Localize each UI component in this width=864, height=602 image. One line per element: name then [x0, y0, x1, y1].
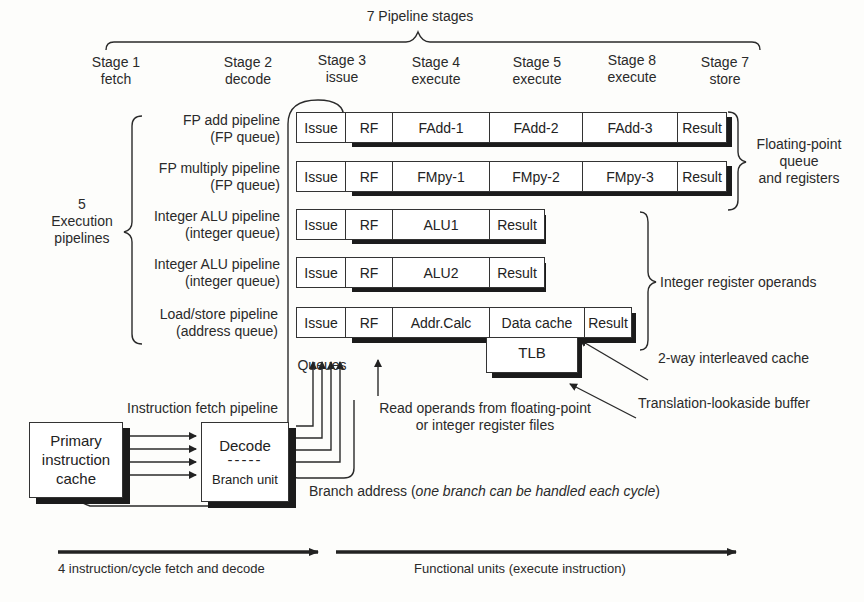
pipeline-row-load-store: Issue RF Addr.Calc Data cache Result — [296, 307, 632, 338]
cell-fmpy-2: FMpy-2 — [489, 161, 583, 192]
cell-rf: RF — [345, 161, 393, 192]
stage-3: Stage 3issue — [302, 52, 382, 86]
cell-data-cache: Data cache — [489, 307, 585, 338]
pipeline-row-int-alu-2: Issue RF ALU2 Result — [296, 257, 545, 288]
pipeline-row-fp-multiply: Issue RF FMpy-1 FMpy-2 FMpy-3 Result — [296, 161, 727, 192]
cell-issue: Issue — [296, 161, 346, 192]
read-operands-label: Read operands from floating-point or int… — [360, 400, 610, 434]
execution-pipelines-label: 5 Execution pipelines — [40, 196, 124, 247]
pipeline-row-int-alu-1: Issue RF ALU1 Result — [296, 209, 545, 240]
cell-rf: RF — [345, 209, 393, 240]
stage-4: Stage 4execute — [396, 54, 476, 88]
fetch-decode-footer-label: 4 instruction/cycle fetch and decode — [58, 560, 265, 577]
cell-issue: Issue — [296, 209, 346, 240]
fp-queue-registers-label: Floating-point queue and registers — [744, 136, 854, 187]
branch-address-label: Branch address (one branch can be handle… — [309, 483, 660, 500]
decode-unit: Decode ----- Branch unit — [201, 422, 289, 502]
cell-result: Result — [584, 307, 632, 338]
cell-fadd-3: FAdd-3 — [582, 112, 678, 143]
cell-rf: RF — [345, 307, 393, 338]
queues-label: Queues — [292, 357, 352, 374]
primary-instruction-cache: Primary instruction cache — [29, 422, 123, 498]
cell-fadd-2: FAdd-2 — [489, 112, 583, 143]
cell-fmpy-3: FMpy-3 — [582, 161, 678, 192]
pipeline-stages-title: 7 Pipeline stages — [360, 8, 480, 25]
pipeline-label-int-alu-2: Integer ALU pipeline(integer queue) — [132, 256, 280, 290]
stage-5: Stage 5execute — [497, 54, 577, 88]
instruction-fetch-pipeline-label: Instruction fetch pipeline — [100, 400, 278, 417]
pipeline-label-fp-multiply: FP multiply pipeline(FP queue) — [138, 160, 280, 194]
tlb-full-label: Translation-lookaside buffer — [638, 395, 810, 412]
cell-alu1: ALU1 — [392, 209, 490, 240]
queue-enclosure — [288, 100, 354, 478]
cell-issue: Issue — [296, 257, 346, 288]
integer-register-operands-label: Integer register operands — [660, 274, 816, 291]
two-way-cache-label: 2-way interleaved cache — [658, 350, 809, 367]
cell-fmpy-1: FMpy-1 — [392, 161, 490, 192]
cell-result: Result — [677, 112, 727, 143]
tlb-box: TLB — [486, 337, 578, 373]
cell-result: Result — [489, 257, 545, 288]
diagram-lines — [0, 0, 864, 602]
branch-unit-label: Branch unit — [202, 472, 288, 487]
stage-2: Stage 2decode — [208, 54, 288, 88]
pipeline-row-fp-add: Issue RF FAdd-1 FAdd-2 FAdd-3 Result — [296, 112, 727, 143]
cell-issue: Issue — [296, 307, 346, 338]
stage-7: Stage 7store — [685, 54, 765, 88]
int-brace — [640, 212, 656, 350]
cell-fadd-1: FAdd-1 — [392, 112, 490, 143]
pipeline-label-fp-add: FP add pipeline(FP queue) — [138, 112, 280, 146]
stage-1: Stage 1fetch — [76, 54, 156, 88]
cell-result: Result — [677, 161, 727, 192]
functional-units-footer-label: Functional units (execute instruction) — [414, 560, 626, 577]
stages-brace — [106, 32, 760, 50]
pipeline-label-load-store: Load/store pipeline(address queue) — [132, 306, 278, 340]
pipeline-label-int-alu-1: Integer ALU pipeline(integer queue) — [132, 208, 280, 242]
stage-8: Stage 8execute — [592, 52, 672, 86]
cell-rf: RF — [345, 112, 393, 143]
cell-issue: Issue — [296, 112, 346, 143]
cell-result: Result — [489, 209, 545, 240]
cell-rf: RF — [345, 257, 393, 288]
cell-addr-calc: Addr.Calc — [392, 307, 490, 338]
cell-alu2: ALU2 — [392, 257, 490, 288]
